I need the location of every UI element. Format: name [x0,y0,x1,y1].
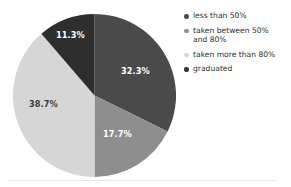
pie-slice-data-label: 32.3% [121,66,150,76]
pie-slice-data-label: 38.7% [29,99,58,109]
pie-slice-data-label: 17.7% [103,129,132,139]
legend-marker-icon [184,14,189,19]
pie-chart-figure: 32.3%17.7%38.7%11.3% less than 50%taken … [0,0,291,187]
pie-slice-group [13,14,176,177]
legend-item-label: less than 50% [193,11,247,20]
pie-chart-plot-area: 32.3%17.7%38.7%11.3% [13,14,176,177]
pie-slice-data-label: 11.3% [56,30,85,40]
scan-artifact-line [8,180,276,181]
legend-marker-icon [184,67,189,72]
legend-item-label: taken more than 80% [193,50,275,59]
legend-item-label: graduated [193,64,232,73]
legend-marker-icon [184,53,189,58]
chart-legend: less than 50%taken between 50% and 80%ta… [184,11,288,79]
pie-chart-svg: 32.3%17.7%38.7%11.3% [13,14,176,177]
legend-item[interactable]: less than 50% [184,11,288,20]
legend-item[interactable]: taken more than 80% [184,50,288,59]
legend-item[interactable]: taken between 50% and 80% [184,26,288,44]
legend-item-label: taken between 50% and 80% [193,26,269,44]
legend-marker-icon [184,29,189,34]
legend-item[interactable]: graduated [184,64,288,73]
